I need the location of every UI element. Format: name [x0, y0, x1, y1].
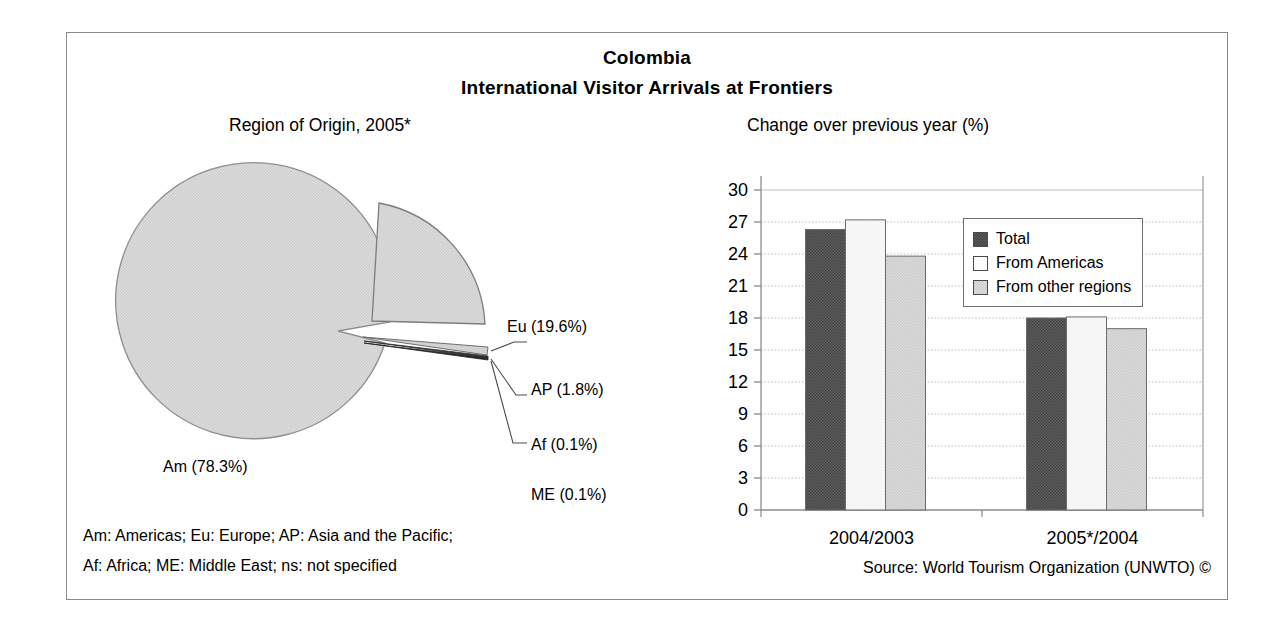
pie-slice-americas	[116, 163, 392, 439]
y-axis-tick-label: 12	[728, 372, 748, 392]
legend-swatch-total	[973, 232, 988, 247]
y-axis-tick-label: 21	[728, 276, 748, 296]
pie-slice-europe	[372, 203, 485, 324]
bar-chart-legend: Total From Americas From other regions	[963, 218, 1143, 307]
legend-item-total: Total	[973, 230, 1131, 248]
bar-chart-panel: 0369121518212427302004/20032005*/2004	[663, 138, 1229, 568]
legend-label-from-other-regions: From other regions	[996, 278, 1131, 296]
abbreviation-note-line-2: Af: Africa; ME: Middle East; ns: not spe…	[83, 557, 397, 575]
pie-label-africa: Af (0.1%)	[531, 436, 598, 454]
legend-item-from-other-regions: From other regions	[973, 278, 1131, 296]
y-axis-tick-label: 27	[728, 212, 748, 232]
bar-chart-title: Change over previous year (%)	[747, 115, 989, 136]
bar-from-other-regions-20052004	[1107, 329, 1147, 510]
bar-from-other-regions-20042003	[886, 256, 926, 510]
legend-item-from-americas: From Americas	[973, 254, 1131, 272]
bar-total-20042003	[806, 229, 846, 510]
bar-total-20052004	[1027, 318, 1067, 510]
y-axis-tick-label: 30	[728, 180, 748, 200]
legend-label-from-americas: From Americas	[996, 254, 1104, 272]
bar-from-americas-20042003	[846, 220, 886, 510]
y-axis-tick-label: 6	[738, 436, 748, 456]
y-axis-tick-label: 0	[738, 500, 748, 520]
legend-swatch-from-other-regions	[973, 280, 988, 295]
pie-label-middle-east: ME (0.1%)	[531, 486, 607, 504]
abbreviation-note-line-1: Am: Americas; Eu: Europe; AP: Asia and t…	[83, 527, 453, 545]
figure-frame: Colombia International Visitor Arrivals …	[66, 32, 1228, 600]
page-subtitle: International Visitor Arrivals at Fronti…	[67, 77, 1227, 99]
page-title: Colombia	[67, 47, 1227, 69]
y-axis-tick-label: 3	[738, 468, 748, 488]
x-axis-tick-label: 2005*/2004	[1046, 528, 1138, 548]
y-axis-tick-label: 18	[728, 308, 748, 328]
pie-label-asia-pacific: AP (1.8%)	[531, 381, 604, 399]
bar-chart-svg: 0369121518212427302004/20032005*/2004	[663, 138, 1229, 568]
y-axis-tick-label: 9	[738, 404, 748, 424]
pie-label-europe: Eu (19.6%)	[507, 318, 587, 336]
legend-label-total: Total	[996, 230, 1030, 248]
bar-from-americas-20052004	[1067, 317, 1107, 510]
x-axis-tick-label: 2004/2003	[829, 528, 914, 548]
pie-label-americas: Am (78.3%)	[163, 458, 247, 476]
pie-leader-lines	[491, 342, 527, 443]
source-note: Source: World Tourism Organization (UNWT…	[863, 559, 1211, 577]
pie-chart-svg	[67, 103, 687, 523]
y-axis-tick-label: 15	[728, 340, 748, 360]
pie-chart-panel: Am (78.3%) Eu (19.6%) AP (1.8%) Af (0.1%…	[67, 103, 687, 523]
y-axis-tick-label: 24	[728, 244, 748, 264]
legend-swatch-from-americas	[973, 256, 988, 271]
